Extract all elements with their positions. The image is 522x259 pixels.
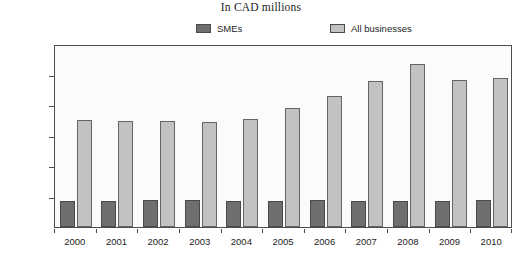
x-axis-tick-label: 2008: [397, 236, 418, 247]
bar-chart: In CAD millions SMEs All businesses 0100…: [0, 0, 522, 259]
chart-title: In CAD millions: [0, 1, 522, 13]
bar-all-businesses-2002: [160, 121, 175, 227]
x-axis-tick-mark: [470, 229, 471, 233]
bar-all-businesses-2004: [243, 119, 258, 227]
bar-smes-2007: [351, 201, 366, 227]
bar-smes-2003: [185, 200, 200, 227]
x-axis-tick-label: 2003: [189, 236, 210, 247]
x-axis-tick-mark: [137, 229, 138, 233]
legend-label-smes: SMEs: [217, 23, 242, 34]
x-axis-tick-label: 2010: [481, 236, 502, 247]
bar-smes-2006: [310, 200, 325, 227]
bar-smes-2005: [268, 201, 283, 227]
bar-all-businesses-2008: [410, 64, 425, 227]
bar-all-businesses-2010: [493, 78, 508, 227]
bar-smes-2002: [143, 200, 158, 227]
bar-smes-2009: [435, 201, 450, 227]
x-axis-tick-label: 2006: [314, 236, 335, 247]
chart-legend: SMEs All businesses: [0, 20, 522, 36]
legend-swatch-smes: [196, 24, 211, 33]
bar-smes-2008: [393, 201, 408, 227]
legend-label-all-businesses: All businesses: [351, 23, 412, 34]
bar-smes-2000: [60, 201, 75, 227]
x-axis-tick-label: 2004: [231, 236, 252, 247]
legend-swatch-all-businesses: [330, 24, 345, 33]
x-axis-tick-label: 2002: [148, 236, 169, 247]
x-axis-tick-mark: [179, 229, 180, 233]
plot-area: [54, 45, 512, 228]
x-axis-tick-mark: [96, 229, 97, 233]
x-axis-tick-mark: [54, 229, 55, 233]
legend-item-all-businesses: All businesses: [330, 20, 412, 36]
x-axis-tick-mark: [429, 229, 430, 233]
bar-all-businesses-2009: [452, 80, 467, 227]
x-axis-tick-mark: [262, 229, 263, 233]
bar-smes-2010: [476, 200, 491, 227]
x-axis-tick-mark: [304, 229, 305, 233]
x-axis-tick-label: 2009: [439, 236, 460, 247]
bar-all-businesses-2003: [202, 122, 217, 227]
bar-smes-2004: [226, 201, 241, 227]
bar-all-businesses-2000: [77, 120, 92, 227]
x-axis-tick-label: 2005: [272, 236, 293, 247]
bar-all-businesses-2005: [285, 108, 300, 227]
bar-smes-2001: [101, 201, 116, 227]
x-axis-tick-label: 2001: [106, 236, 127, 247]
legend-item-smes: SMEs: [196, 20, 242, 36]
x-axis-tick-label: 2007: [356, 236, 377, 247]
x-axis-tick-mark: [345, 229, 346, 233]
bar-all-businesses-2007: [368, 81, 383, 227]
bar-all-businesses-2006: [327, 96, 342, 227]
x-axis-tick-label: 2000: [64, 236, 85, 247]
x-axis-tick-mark: [387, 229, 388, 233]
plot-inner: [55, 46, 511, 227]
bar-all-businesses-2001: [118, 121, 133, 227]
x-axis-tick-mark: [221, 229, 222, 233]
x-axis-tick-mark: [511, 229, 512, 233]
